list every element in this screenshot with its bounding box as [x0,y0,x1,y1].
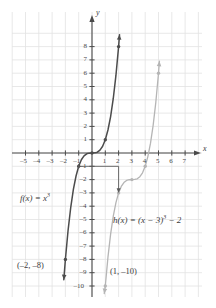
y-tick-label-1: 1 [84,135,88,143]
y-tick-label-neg9: –9 [80,268,87,276]
y-tick-label-neg6: –6 [80,228,87,236]
x-tick-label-6: 6 [169,157,173,165]
y-tick-label-neg5: –5 [80,215,87,223]
x-tick-label-2: 2 [116,157,120,165]
y-axis-label: y [96,8,100,17]
x-axis-label: x [203,144,207,153]
y-tick-label-neg4: –4 [80,202,87,210]
function-label-f: f(x) = x3 [20,192,50,203]
x-tick-label-neg5: –5 [20,157,27,165]
x-tick-label-7: 7 [183,157,187,165]
x-tick-label-5: 5 [156,157,160,165]
data-point [117,45,120,48]
point-label-h-1-minus10: (1, –10) [110,266,137,276]
y-tick-label-7: 7 [84,55,88,63]
point-label-f-minus2-minus8: (–2, –8) [17,260,44,270]
data-point [90,151,93,154]
x-tick-label-neg4: –4 [33,157,40,165]
y-tick-label-neg1: –1 [80,162,87,170]
y-tick-label-3: 3 [84,109,88,117]
y-tick-label-2: 2 [84,122,88,130]
data-point [104,284,107,287]
y-tick-label-neg2: –2 [80,175,87,183]
x-tick-label-1: 1 [103,157,107,165]
graph-figure: –5–4–3–2–1123456787654321–1–2–3–4–5–6–7–… [0,0,216,308]
y-tick-label-neg8: –8 [80,255,87,263]
y-tick-label-neg7: –7 [80,242,87,250]
data-point [157,72,160,75]
y-tick-label-5: 5 [84,82,88,90]
x-tick-label-3: 3 [129,157,133,165]
y-tick-label-4: 4 [84,95,88,103]
y-tick-label-6: 6 [84,69,88,77]
function-label-h: h(x) = (x − 3)3 − 2 [113,214,181,225]
x-tick-label-neg3: –3 [47,157,54,165]
x-tick-label-4: 4 [143,157,147,165]
y-tick-label-neg3: –3 [80,188,87,196]
data-point [144,165,147,168]
y-tick-label-8: 8 [84,42,88,50]
x-tick-label-neg2: –2 [60,157,67,165]
y-tick-label-neg10: –10 [74,282,85,290]
data-point [64,258,67,261]
data-point [104,138,107,141]
data-point [130,178,133,181]
grid-lines [12,12,202,297]
